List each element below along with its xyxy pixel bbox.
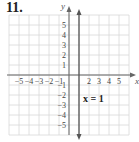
- svg-text:4: 4: [107, 77, 111, 86]
- svg-text:−2: −2: [57, 91, 66, 100]
- svg-text:2: 2: [62, 51, 66, 60]
- coordinate-plane: −5−4−3−2−1234554321−1−2−3−4−5 x y x = 1: [0, 0, 139, 142]
- x-axis-label: x: [134, 76, 139, 86]
- svg-text:3: 3: [97, 77, 101, 86]
- svg-text:1: 1: [62, 61, 66, 70]
- svg-text:−3: −3: [57, 101, 66, 110]
- svg-text:4: 4: [62, 31, 66, 40]
- svg-text:−2: −2: [45, 77, 54, 86]
- svg-text:−5: −5: [57, 121, 66, 130]
- y-axis-label: y: [60, 1, 65, 11]
- svg-text:−5: −5: [15, 77, 24, 86]
- svg-text:−4: −4: [25, 77, 34, 86]
- svg-text:3: 3: [62, 41, 66, 50]
- equation-label: x = 1: [83, 93, 104, 104]
- svg-text:−1: −1: [57, 81, 66, 90]
- svg-text:−3: −3: [35, 77, 44, 86]
- svg-text:5: 5: [62, 21, 66, 30]
- svg-text:5: 5: [117, 77, 121, 86]
- svg-text:2: 2: [87, 77, 91, 86]
- svg-text:−4: −4: [57, 111, 66, 120]
